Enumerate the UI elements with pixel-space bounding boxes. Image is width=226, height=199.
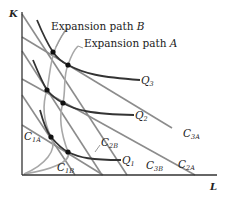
isocost-c2a-label: C2A [178,158,195,172]
isoquant-q3-label: Q3 [141,74,154,88]
expansion-path-a-label: Expansion path A [84,37,178,49]
isoquant-q2-label: Q2 [135,109,148,123]
l-axis-label: L [209,181,217,192]
point-b3 [50,49,55,54]
tangency-points [44,49,70,154]
point-a2 [60,100,65,105]
point-a1 [65,149,70,154]
k-axis-label: K [8,8,19,19]
isocost-c3a-label: C3A [183,127,200,141]
point-a3 [65,62,70,67]
expansion-path-diagram: K L Expansion path B Expansion path A Q3… [0,0,226,199]
isocost-c2b-label: C2B [101,136,118,150]
point-b1 [48,134,53,139]
expansion-path-b-label: Expansion path B [51,20,145,32]
point-b2 [44,87,49,92]
isocost-c3b-label: C3B [146,159,163,173]
isocost-c1b-label: C1B [57,161,74,175]
isoquant-q1-label: Q1 [122,154,135,168]
